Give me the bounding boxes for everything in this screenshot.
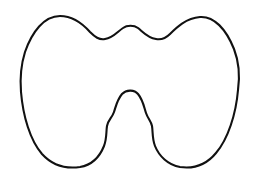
figure-canvas [0, 0, 259, 175]
thyroid-gland-figure [0, 0, 259, 175]
